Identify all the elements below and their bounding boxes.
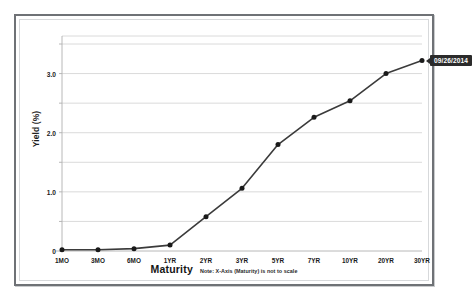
- data-point-marker: [204, 214, 209, 219]
- x-axis-title: Maturity: [151, 263, 193, 275]
- data-point-marker: [312, 115, 317, 120]
- gridlines-group: [62, 36, 422, 221]
- data-point-marker: [96, 247, 101, 252]
- y-axis-tick-label: 2.0: [34, 129, 56, 136]
- data-point-marker: [276, 142, 281, 147]
- y-axis-tick-label: 1.0: [34, 188, 56, 195]
- data-point-marker: [168, 243, 173, 248]
- data-point-marker: [60, 247, 65, 252]
- data-point-marker: [132, 246, 137, 251]
- x-axis-scale-note: Note: X-Axis (Maturity) is not to scale: [200, 268, 298, 274]
- axis-lines-group: [56, 36, 422, 251]
- data-point-marker: [240, 186, 245, 191]
- chart-inner-frame: Yield (%) 01.02.03.0 1MO3MO6MO1YR2YR3YR5…: [19, 19, 429, 281]
- yield-curve-markers: [60, 58, 425, 252]
- data-point-marker: [348, 98, 353, 103]
- yield-curve-chart: Yield (%) 01.02.03.0 1MO3MO6MO1YR2YR3YR5…: [20, 20, 428, 280]
- x-axis-title-row: Maturity Note: X-Axis (Maturity) is not …: [20, 263, 428, 275]
- series-date-callout: 09/26/2014: [430, 55, 472, 66]
- data-point-marker: [420, 58, 425, 63]
- plot-canvas: [20, 20, 432, 284]
- y-axis-tick-label: 3.0: [34, 70, 56, 77]
- data-point-marker: [384, 71, 389, 76]
- y-axis-tick-label: 0: [34, 248, 56, 255]
- chart-outer-frame: Yield (%) 01.02.03.0 1MO3MO6MO1YR2YR3YR5…: [14, 14, 434, 286]
